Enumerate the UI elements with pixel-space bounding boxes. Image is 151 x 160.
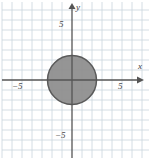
x-axis-arrowhead [137,77,144,84]
coordinate-plane-figure: −5 5 5 −5 x y [0,0,151,160]
y-axis-label: y [76,3,80,12]
plot-canvas [0,0,151,160]
y-tick-label-positive-5: 5 [59,20,64,29]
x-tick-label-negative-5: −5 [12,82,23,91]
y-axis-arrowhead [69,3,76,9]
y-tick-label-negative-5: −5 [55,131,66,140]
x-axis-label: x [138,62,142,71]
x-tick-label-positive-5: 5 [118,82,123,91]
